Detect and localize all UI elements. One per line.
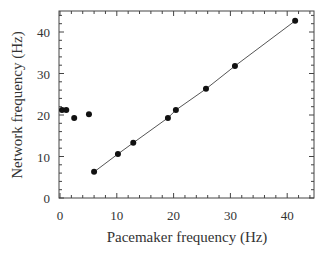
data-point (130, 140, 136, 146)
y-tick-labels: 010203040 (37, 25, 50, 206)
y-tick-label: 30 (37, 67, 50, 82)
data-point (91, 169, 97, 175)
x-tick-label: 40 (281, 208, 294, 223)
y-axis-label: Network frequency (Hz) (9, 31, 26, 178)
y-tick-label: 0 (44, 191, 51, 206)
x-tick-labels: 010203040 (57, 208, 294, 223)
x-tick-label: 20 (167, 208, 180, 223)
x-tick-label: 30 (224, 208, 237, 223)
fit-line (94, 21, 295, 172)
x-tick-label: 0 (57, 208, 64, 223)
data-point (63, 107, 69, 113)
data-point (115, 151, 121, 157)
data-point (86, 111, 92, 117)
data-point (71, 115, 77, 121)
data-point (203, 86, 209, 92)
x-axis-label: Pacemaker frequency (Hz) (107, 229, 268, 246)
data-point (292, 18, 298, 24)
data-points (59, 18, 298, 175)
x-tick-label: 10 (110, 208, 123, 223)
data-point (173, 107, 179, 113)
data-point (165, 115, 171, 121)
scatter-chart: 010203040 010203040 Pacemaker frequency … (0, 0, 327, 254)
data-point (232, 63, 238, 69)
y-tick-label: 20 (37, 108, 50, 123)
y-tick-label: 10 (37, 150, 50, 165)
y-tick-label: 40 (37, 25, 50, 40)
